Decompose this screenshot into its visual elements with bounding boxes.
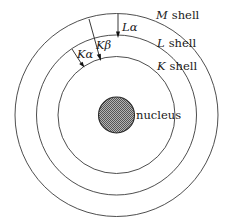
l-shell-label: Lshell [156, 36, 196, 50]
k-shell-label: Kshell [156, 59, 197, 73]
nucleus-label: nucleus [136, 108, 181, 122]
l-alpha-label: Lα [121, 20, 138, 34]
nucleus-circle [99, 97, 135, 133]
k-alpha-label: Kα [76, 47, 94, 61]
m-shell-label: Mshell [155, 8, 200, 22]
k-beta-label: Kβ [95, 38, 112, 52]
atomic-shell-diagram: Kα Kβ Lα Mshell Lshell Kshell nucleus [0, 0, 230, 222]
l-alpha-arrow [116, 14, 120, 38]
